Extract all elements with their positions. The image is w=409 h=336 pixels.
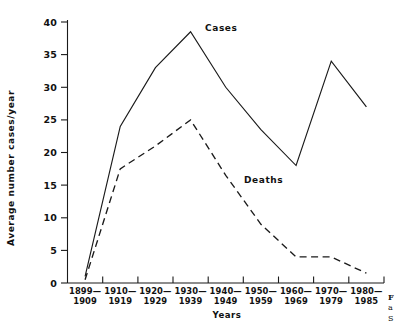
x-tick-label: 1920— [139,286,171,296]
x-tick-label: 1899— [69,286,101,296]
caption-line-2: a [388,303,409,314]
y-axis-title: Average number cases/year [6,90,16,246]
caption-line-1: F [388,292,409,303]
figure-container: 40 35 30 25 20 15 10 5 0 1899— 1909 191 [0,0,409,336]
y-tick-label: 25 [43,114,57,125]
series-annotation-cases: Cases [205,23,238,33]
x-tick-labels: 1899— 1909 1910— 1919 1920— 1929 1930— 1… [69,286,382,306]
x-tick-label: 1940— [210,286,242,296]
x-tick-label: 1979 [319,296,343,306]
x-tick-label: 1939 [179,296,203,306]
x-tick-label: 1949 [214,296,238,306]
y-tick-label: 30 [43,82,57,93]
y-tick-labels: 40 35 30 25 20 15 10 5 0 [43,17,57,289]
series-line-deaths [85,120,366,280]
x-axis-title: Years [212,310,242,320]
y-tick-label: 15 [43,180,57,191]
x-tick-label: 1909 [73,296,97,306]
series-annotation-deaths: Deaths [244,175,283,185]
y-tick-label: 20 [43,147,57,158]
x-tick-label: 1919 [108,296,132,306]
x-tick-label: 1969 [284,296,308,306]
x-tick-label: 1910— [104,286,136,296]
caption-line-3: S [388,314,409,325]
x-tick-label: 1929 [144,296,168,306]
x-tick-label: 1959 [249,296,273,306]
y-tick-label: 0 [50,278,57,289]
y-tick-label: 35 [43,49,57,60]
x-tick-label: 1930— [175,286,207,296]
x-tick-label: 1950— [245,286,277,296]
y-tick-label: 5 [50,245,57,256]
line-chart: 40 35 30 25 20 15 10 5 0 1899— 1909 191 [0,0,409,336]
y-tick-marks [61,22,68,283]
x-tick-label: 1985 [355,296,379,306]
x-tick-marks [103,277,384,284]
figure-caption: F a S [388,292,409,324]
y-tick-label: 10 [43,212,57,223]
x-tick-label: 1960— [280,286,312,296]
series-line-cases [85,32,366,277]
y-tick-label: 40 [43,17,57,28]
x-tick-label: 1980— [350,286,382,296]
x-tick-label: 1970— [315,286,347,296]
